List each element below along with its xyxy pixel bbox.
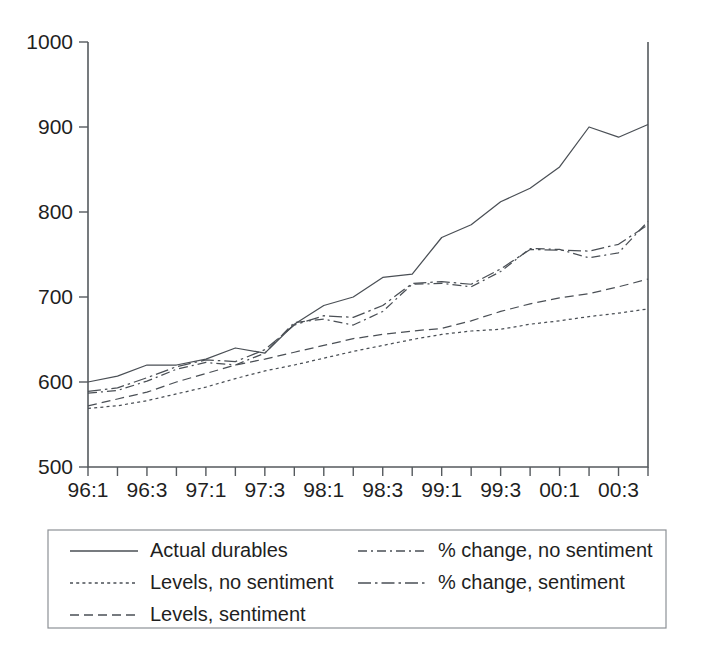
x-tick-label: 96:1 (68, 478, 109, 501)
chart-figure: 5006007008009001000 96:196:397:197:398:1… (0, 0, 714, 647)
x-tick-label: 98:1 (303, 478, 344, 501)
legend-label-3: % change, no sentiment (438, 539, 653, 561)
legend-label-1: Levels, no sentiment (150, 571, 334, 593)
x-tick-label: 97:3 (244, 478, 285, 501)
series-line-1 (88, 309, 648, 408)
y-tick-label: 900 (38, 115, 73, 138)
legend-label-0: Actual durables (150, 539, 288, 561)
x-tick-label: 99:3 (480, 478, 521, 501)
series-line-2 (88, 279, 648, 406)
x-tick-label: 00:1 (539, 478, 580, 501)
x-tick-label: 98:3 (362, 478, 403, 501)
series-lines (88, 124, 648, 408)
legend-label-4: % change, sentiment (438, 571, 625, 593)
x-tick-label: 00:3 (598, 478, 639, 501)
y-tick-label: 700 (38, 285, 73, 308)
chart-legend: Actual durablesLevels, no sentimentLevel… (48, 530, 666, 628)
x-axis-tick-labels: 96:196:397:197:398:198:399:199:300:100:3 (68, 478, 639, 501)
axes (79, 42, 648, 476)
x-tick-label: 99:1 (421, 478, 462, 501)
y-tick-label: 1000 (26, 30, 73, 53)
series-line-3 (88, 221, 648, 393)
y-tick-label: 500 (38, 455, 73, 478)
legend-label-2: Levels, sentiment (150, 603, 306, 625)
y-tick-label: 600 (38, 370, 73, 393)
plot-border (88, 42, 648, 467)
x-tick-label: 96:3 (127, 478, 168, 501)
series-line-0 (88, 124, 648, 382)
y-axis-tick-labels: 5006007008009001000 (26, 30, 73, 478)
x-tick-label: 97:1 (185, 478, 226, 501)
durables-forecast-line-chart: 5006007008009001000 96:196:397:197:398:1… (0, 0, 714, 647)
series-line-4 (88, 225, 648, 392)
y-tick-label: 800 (38, 200, 73, 223)
